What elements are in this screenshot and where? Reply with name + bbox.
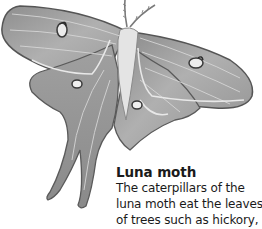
caption-line: of trees such as hickory,: [116, 212, 262, 228]
caption: Luna moth The caterpillars of the luna m…: [116, 164, 262, 228]
left-hindwing: [30, 45, 119, 208]
caption-title: Luna moth: [116, 164, 262, 180]
caption-body: The caterpillars of the luna moth eat th…: [116, 180, 262, 228]
caption-line: The caterpillars of the: [116, 180, 262, 196]
caption-line: luna moth eat the leaves: [116, 196, 262, 212]
antennae: [123, 0, 155, 27]
